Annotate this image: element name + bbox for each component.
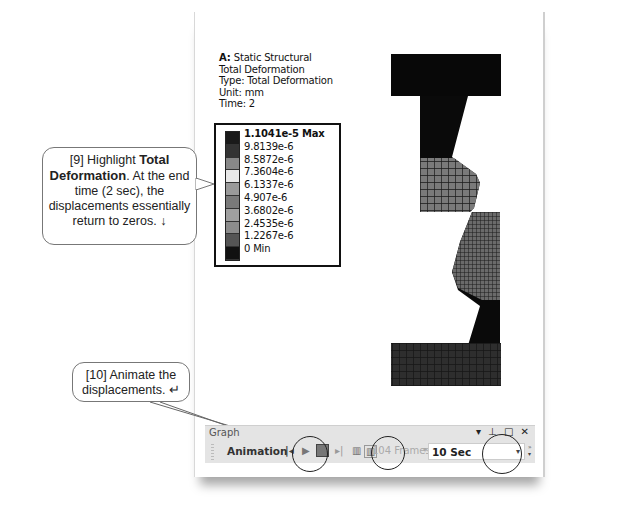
duration-value: 10 Sec: [432, 446, 471, 458]
distributed-frames-icon[interactable]: ▥: [352, 445, 361, 456]
highlight-play-circle: [292, 436, 328, 472]
frames-dropdown-icon[interactable]: ▾: [423, 445, 427, 454]
next-frame-icon[interactable]: ▸|: [335, 445, 343, 456]
highlight-duration-circle: [482, 434, 522, 474]
callout-step10: [10] Animate the displacements. ↵: [72, 362, 190, 402]
highlight-frames-circle: [371, 436, 405, 470]
toolbar-grip[interactable]: [211, 444, 214, 460]
graph-title: Graph: [209, 427, 240, 438]
animation-label: Animation: [227, 445, 288, 457]
toolbar-overflow-icon[interactable]: »▾: [528, 443, 532, 457]
